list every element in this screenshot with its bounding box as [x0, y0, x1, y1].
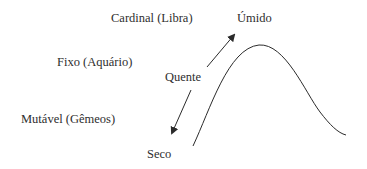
modality-quality-diagram: Cardinal (Libra) Úmido Fixo (Aquário) Qu…	[0, 0, 367, 169]
arrow-down-left-icon	[172, 90, 191, 133]
diagram-graphics	[0, 0, 367, 169]
arrow-up-right-icon	[207, 35, 234, 67]
wave-curve	[193, 45, 346, 146]
